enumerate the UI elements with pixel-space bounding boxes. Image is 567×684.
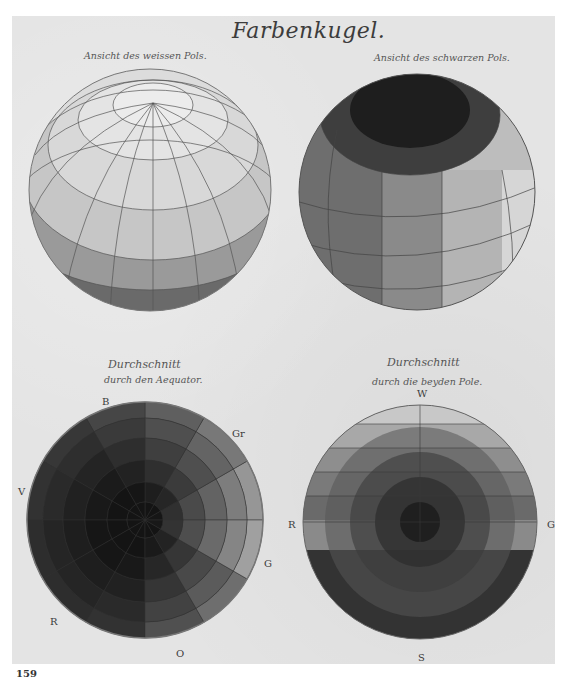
equator-label-o: O <box>176 648 184 659</box>
poles-label-g: G <box>547 519 555 530</box>
black-pole-sphere <box>292 70 542 320</box>
equator-label-b: B <box>102 396 109 407</box>
caption-poles-line2: durch die beyden Pole. <box>372 376 482 387</box>
caption-white-pole: Ansicht des weissen Pols. <box>84 50 207 61</box>
white-pole-sphere <box>25 65 275 315</box>
poles-label-s: S <box>418 652 425 663</box>
caption-equator-line1: Durchschnitt <box>108 358 181 371</box>
poles-label-w: W <box>417 388 427 399</box>
equator-label-r: R <box>50 616 58 627</box>
caption-black-pole: Ansicht des schwarzen Pols. <box>374 52 510 63</box>
plate-title: Farbenkugel. <box>232 18 385 43</box>
poles-label-r: R <box>288 519 296 530</box>
equator-label-g: G <box>264 558 272 569</box>
page-number: 159 <box>16 668 37 679</box>
equator-section-disc <box>25 400 265 640</box>
equator-label-v: V <box>18 486 25 497</box>
caption-poles-line1: Durchschnitt <box>387 356 460 369</box>
poles-section-disc <box>300 400 540 640</box>
equator-label-gr: Gr <box>232 428 245 439</box>
caption-equator-line2: durch den Aequator. <box>104 374 202 385</box>
